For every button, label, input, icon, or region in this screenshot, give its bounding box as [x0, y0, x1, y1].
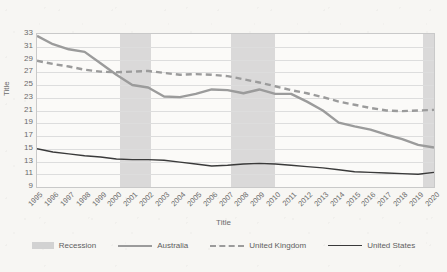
legend-item-united-kingdom[interactable]: United Kingdom — [210, 241, 306, 250]
legend-item-recession[interactable]: Recession — [32, 241, 96, 250]
plot-area — [36, 33, 435, 188]
legend-swatch-solid-line — [118, 245, 152, 247]
legend-swatch-recession-band — [32, 242, 54, 249]
legend-swatch-thin-line — [328, 245, 362, 246]
legend-label: United Kingdom — [249, 241, 306, 250]
y-axis-tick-label: 19 — [3, 118, 33, 126]
x-axis-title: Title — [0, 218, 447, 227]
legend-label: Recession — [59, 241, 96, 250]
y-axis-tick-label: 15 — [3, 144, 33, 152]
y-axis-tick-label: 25 — [3, 80, 33, 88]
legend-item-australia[interactable]: Australia — [118, 241, 188, 250]
y-axis-tick-label: 21 — [3, 106, 33, 114]
series-line-australia — [37, 36, 434, 148]
series-lines — [37, 34, 434, 187]
y-axis-tick-label: 23 — [3, 93, 33, 101]
y-axis-tick-label: 27 — [3, 67, 33, 75]
y-axis-tick-label: 11 — [3, 169, 33, 177]
line-chart: Title 9111315171921232527293133 19951996… — [0, 0, 447, 272]
y-axis-tick-label: 33 — [3, 29, 33, 37]
x-axis-tick-labels: 1995199619971998199920002001200220032004… — [36, 190, 435, 220]
legend-label: Australia — [157, 241, 188, 250]
y-axis-tick-label: 31 — [3, 42, 33, 50]
y-axis-tick-label: 29 — [3, 55, 33, 63]
y-axis-tick-label: 17 — [3, 131, 33, 139]
legend-swatch-dashed-line — [210, 245, 244, 247]
series-line-united-kingdom — [37, 61, 434, 111]
y-axis-tick-label: 9 — [3, 182, 33, 190]
chart-legend: RecessionAustraliaUnited KingdomUnited S… — [0, 241, 447, 250]
legend-label: United States — [367, 241, 415, 250]
y-axis-tick-label: 13 — [3, 157, 33, 165]
y-axis-tick-labels: 9111315171921232527293133 — [0, 33, 33, 188]
series-line-united-states — [37, 149, 434, 175]
legend-item-united-states[interactable]: United States — [328, 241, 415, 250]
